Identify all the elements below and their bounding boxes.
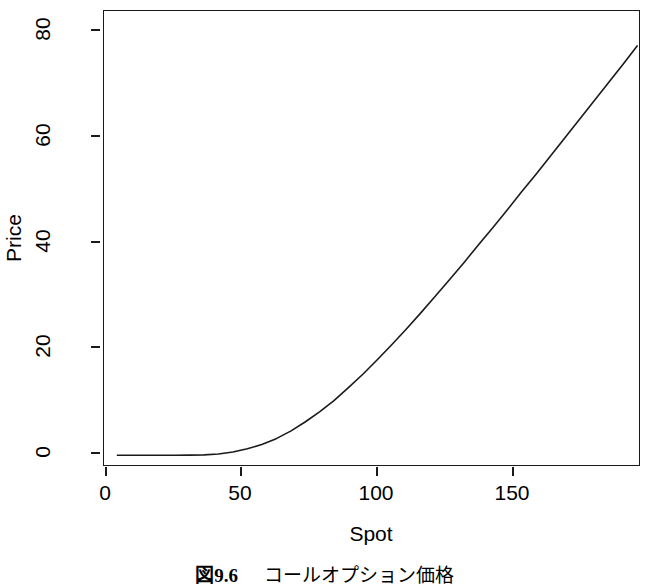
y-axis-label: Price bbox=[2, 214, 26, 262]
x-tick-label-100: 100 bbox=[358, 481, 393, 505]
x-tick-50 bbox=[240, 467, 242, 476]
y-tick-label-20: 20 bbox=[31, 334, 55, 357]
caption-figure-number: 9.6 bbox=[214, 565, 238, 586]
caption-figure-word: 図 bbox=[195, 565, 214, 586]
plot-area bbox=[103, 10, 640, 466]
x-tick-label-0: 0 bbox=[99, 481, 111, 505]
x-tick-label-50: 50 bbox=[228, 481, 251, 505]
y-tick-label-60: 60 bbox=[31, 123, 55, 146]
y-tick-label-40: 40 bbox=[31, 229, 55, 252]
caption-title: コールオプション価格 bbox=[264, 565, 454, 586]
y-tick-80 bbox=[91, 29, 100, 31]
x-tick-label-150: 150 bbox=[494, 481, 529, 505]
y-tick-60 bbox=[91, 135, 100, 137]
x-tick-100 bbox=[376, 467, 378, 476]
figure-caption: 図9.6コールオプション価格 bbox=[0, 560, 649, 587]
y-tick-label-0: 0 bbox=[31, 446, 55, 458]
line-series-call-option-price bbox=[103, 10, 640, 466]
y-tick-40 bbox=[91, 241, 100, 243]
x-tick-150 bbox=[512, 467, 514, 476]
y-tick-20 bbox=[91, 346, 100, 348]
x-axis-label: Spot bbox=[349, 522, 392, 546]
y-tick-0 bbox=[91, 452, 100, 454]
x-tick-0 bbox=[105, 467, 107, 476]
y-tick-label-80: 80 bbox=[31, 17, 55, 40]
